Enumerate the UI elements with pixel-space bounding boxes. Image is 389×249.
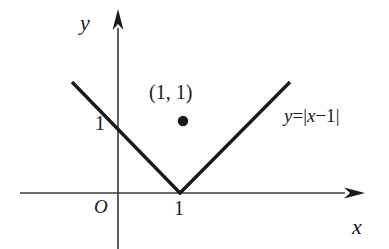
equation-equals-sign: = — [292, 105, 303, 126]
y-axis-arrow-icon — [113, 9, 124, 30]
origin-label: O — [94, 197, 108, 216]
marked-point-dot — [178, 116, 188, 126]
x-axis-tick-label-1: 1 — [174, 198, 184, 218]
y-axis-tick-label-1: 1 — [95, 113, 105, 133]
y-axis-label: y — [80, 12, 90, 34]
x-axis-arrow-icon — [344, 188, 365, 199]
abs-bar-close-icon: | — [336, 105, 340, 126]
absolute-value-graph-figure: y x O 1 1 (1, 1) y=|x−1| — [0, 0, 389, 249]
function-equation-label: y=|x−1| — [284, 106, 339, 125]
minus-sign-icon: −1 — [315, 105, 335, 126]
x-axis-label: x — [352, 216, 362, 238]
point-coordinate-label: (1, 1) — [149, 82, 192, 102]
equation-expression: |x−1| — [303, 105, 339, 126]
